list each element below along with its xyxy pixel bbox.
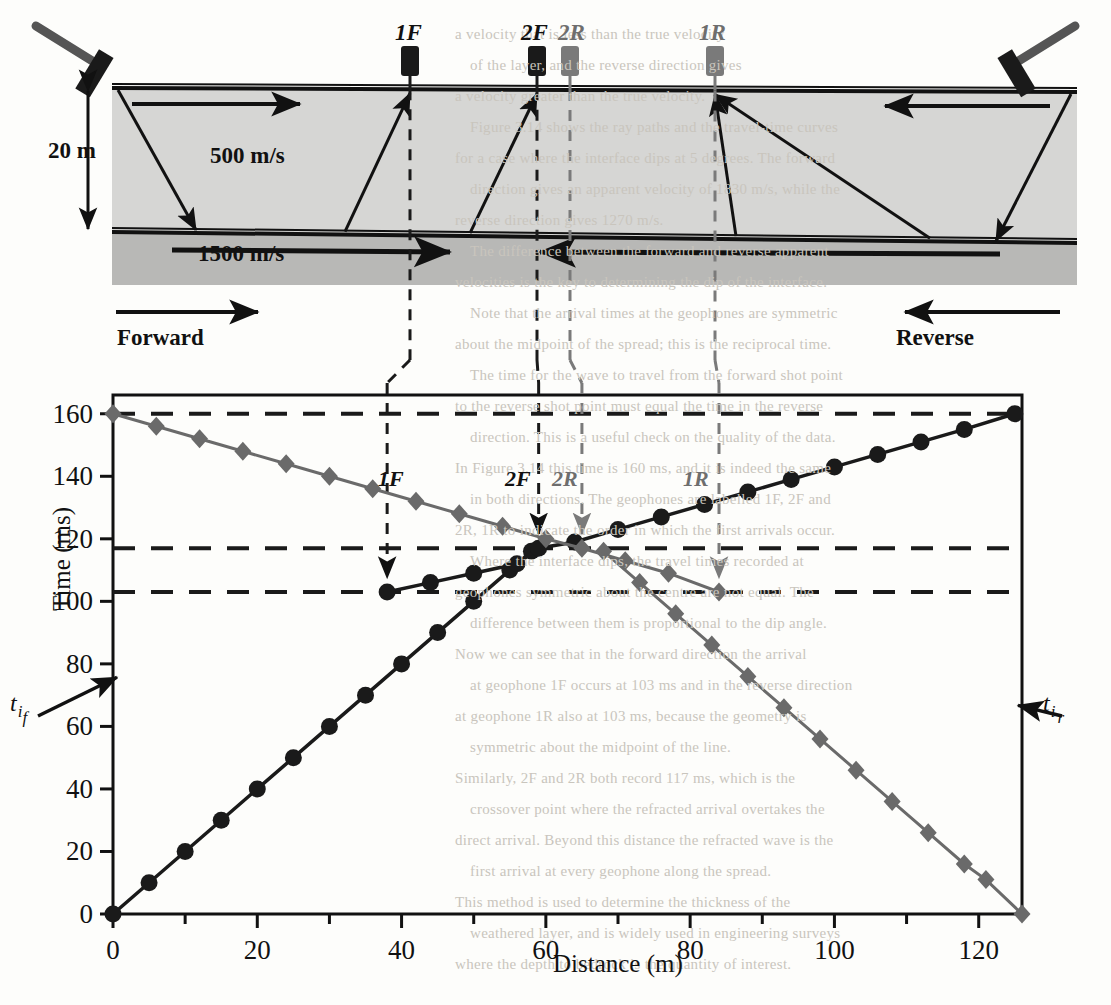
background-text-line: The time for the wave to travel from the… bbox=[470, 367, 843, 384]
background-text-line: at geophone 1R also at 103 ms, because t… bbox=[455, 708, 807, 725]
data-point-s0 bbox=[105, 906, 122, 923]
data-point-s3 bbox=[451, 504, 468, 523]
background-text-line: direct arrival. Beyond this distance the… bbox=[455, 832, 833, 849]
background-text-line: at geophone 1F occurs at 103 ms and in t… bbox=[470, 677, 852, 694]
forward-intercept-sub-f: f bbox=[22, 708, 27, 727]
background-text-line: reverse direction gives 1270 m/s. bbox=[455, 212, 664, 229]
drop-line-connector-1F bbox=[387, 360, 410, 383]
background-text-line: Figure 3.14 shows the ray paths and the … bbox=[470, 119, 838, 136]
hammer-source-right bbox=[997, 26, 1075, 97]
background-text-line: geophones symmetric about the centre are… bbox=[455, 584, 814, 601]
background-text-line: Now we can see that in the forward direc… bbox=[455, 646, 807, 663]
data-point-s0 bbox=[285, 749, 302, 766]
background-text-line: The difference between the forward and r… bbox=[470, 243, 829, 260]
background-text-line: for a case where the interface dips at 5… bbox=[455, 150, 835, 167]
background-text-line: symmetric about the midpoint of the line… bbox=[470, 739, 731, 756]
data-point-s1 bbox=[1006, 405, 1023, 422]
background-text-line: about the midpoint of the spread; this i… bbox=[455, 336, 831, 353]
background-text-line: a velocity that is less than the true ve… bbox=[455, 26, 725, 43]
geophone-label-1F-top: 1F bbox=[395, 20, 422, 46]
forward-direction-label: Forward bbox=[117, 325, 204, 351]
data-point-s0 bbox=[393, 655, 410, 672]
background-text-line: This method is used to determine the thi… bbox=[455, 894, 790, 911]
data-point-s3 bbox=[408, 492, 425, 511]
data-point-s3 bbox=[148, 417, 165, 436]
background-text-line: direction gives an apparent velocity of … bbox=[470, 181, 840, 198]
reverse-intercept-t: t bbox=[1043, 690, 1050, 716]
background-text-line: first arrival at every geophone along th… bbox=[470, 863, 771, 880]
x-tick-label: 0 bbox=[106, 935, 120, 965]
reverse-direction-label: Reverse bbox=[896, 325, 974, 351]
background-text-line: direction. This is a useful check on the… bbox=[470, 429, 836, 446]
y-tick-label: 20 bbox=[66, 836, 93, 866]
geophone-label-2R-top: 2R bbox=[558, 20, 585, 46]
data-point-s1 bbox=[379, 583, 396, 600]
data-point-s0 bbox=[213, 812, 230, 829]
plot-annotation-2F: 2F bbox=[505, 466, 531, 492]
data-point-s1 bbox=[422, 574, 439, 591]
plot-annotation-2R: 2R bbox=[552, 466, 578, 492]
background-text-line: crossover point where the refracted arri… bbox=[470, 801, 825, 818]
reverse-intercept-label: tir bbox=[1043, 690, 1061, 717]
series-line-2 bbox=[604, 551, 1022, 914]
y-tick-label: 0 bbox=[80, 899, 94, 929]
background-text-line: Similarly, 2F and 2R both record 117 ms,… bbox=[455, 770, 795, 787]
y-tick-label: 80 bbox=[66, 649, 93, 679]
background-text-line: difference between them is proportional … bbox=[470, 615, 827, 632]
data-point-s1 bbox=[956, 421, 973, 438]
background-text-line: 2R, 1R to indicate the order in which th… bbox=[455, 522, 835, 539]
background-text-line: weathered layer, and is widely used in e… bbox=[470, 925, 840, 942]
data-point-s3 bbox=[321, 467, 338, 486]
data-point-s3 bbox=[278, 454, 295, 473]
hammer-source-left bbox=[36, 26, 114, 97]
y-tick-label: 40 bbox=[66, 774, 93, 804]
background-text-line: a velocity greater than the true velocit… bbox=[455, 88, 705, 105]
data-point-s3 bbox=[234, 442, 251, 461]
geophone-body-1F[interactable] bbox=[401, 46, 419, 76]
depth-label: 20 m bbox=[48, 138, 96, 164]
x-axis-title: Distance (m) bbox=[553, 950, 683, 978]
data-point-s0 bbox=[141, 874, 158, 891]
data-point-s1 bbox=[913, 433, 930, 450]
y-axis-title: Time (ms) bbox=[48, 479, 76, 639]
layer2-velocity-label: 1500 m/s bbox=[198, 241, 284, 267]
x-tick-label: 120 bbox=[958, 935, 999, 965]
forward-intercept-label: tif bbox=[10, 690, 26, 717]
background-text-line: Where the interface dips, the travel tim… bbox=[470, 553, 804, 570]
geophone-label-2F-top: 2F bbox=[521, 20, 548, 46]
background-text-line: to the reverse shot point must equal the… bbox=[455, 398, 823, 415]
background-text-line: of the layer, and the reverse direction … bbox=[470, 57, 742, 74]
forward-intercept-arrow bbox=[38, 677, 117, 716]
layer1-velocity-label: 500 m/s bbox=[210, 143, 285, 169]
x-tick-label: 40 bbox=[388, 935, 415, 965]
data-point-s3 bbox=[105, 404, 122, 423]
data-point-s0 bbox=[429, 624, 446, 641]
y-tick-label: 160 bbox=[53, 399, 94, 429]
reverse-intercept-sub-i: i bbox=[1051, 702, 1056, 721]
x-tick-label: 20 bbox=[244, 935, 271, 965]
data-point-s1 bbox=[869, 446, 886, 463]
plot-annotation-1F: 1F bbox=[378, 466, 404, 492]
plot-annotation-1R: 1R bbox=[683, 466, 709, 492]
forward-intercept-t: t bbox=[10, 690, 17, 716]
data-point-s3 bbox=[191, 429, 208, 448]
data-point-s0 bbox=[321, 718, 338, 735]
background-text-line: in both directions. The geophones are la… bbox=[470, 491, 831, 508]
figure-stage: a velocity that is less than the true ve… bbox=[0, 0, 1111, 1005]
background-text-line: velocities is the key to determining the… bbox=[455, 274, 827, 291]
y-tick-label: 60 bbox=[66, 711, 93, 741]
data-point-s0 bbox=[177, 843, 194, 860]
data-point-s0 bbox=[249, 780, 266, 797]
reverse-intercept-sub-r: r bbox=[1057, 708, 1064, 727]
background-text-line: Note that the arrival times at the geoph… bbox=[470, 305, 838, 322]
geophone-label-1R-top: 1R bbox=[699, 20, 726, 46]
data-point-s0 bbox=[357, 687, 374, 704]
